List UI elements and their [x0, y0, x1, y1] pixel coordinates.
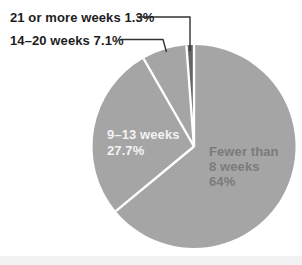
slice-label-fewer-line1: Fewer than	[209, 144, 279, 159]
callout-label-21-or-more: 21 or more weeks 1.3%	[10, 10, 155, 25]
slice-label-9-13-name: 9–13 weeks	[107, 127, 180, 142]
pie-chart-figure: 21 or more weeks 1.3% 14–20 weeks 7.1% 9…	[0, 0, 302, 265]
slice-label-fewer-line2: 8 weeks	[209, 159, 260, 174]
slice-label-9-13-value: 27.7%	[107, 143, 145, 158]
slice-label-fewer-value: 64%	[209, 174, 236, 189]
bottom-crop-strip	[0, 256, 302, 265]
callout-label-14-20: 14–20 weeks 7.1%	[10, 33, 124, 48]
leader-line-14-20	[121, 40, 167, 53]
pie-chart: 21 or more weeks 1.3% 14–20 weeks 7.1% 9…	[0, 0, 302, 265]
